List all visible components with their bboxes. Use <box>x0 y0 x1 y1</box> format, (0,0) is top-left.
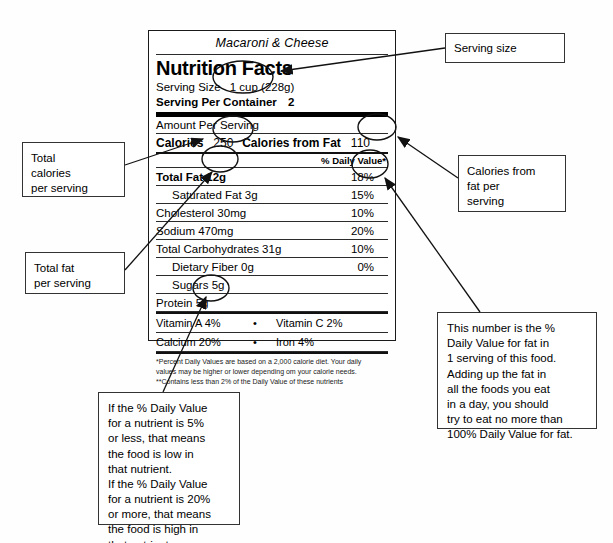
product-name: Macaroni & Cheese <box>156 31 388 54</box>
footnote-line-3: **Contains less than 2% of the Daily Val… <box>156 377 388 387</box>
vitamin-right-value: Iron 4% <box>276 336 314 348</box>
callout-serving-size: Serving size <box>445 33 565 63</box>
nutrition-facts-panel: Macaroni & Cheese Nutrition Facts Servin… <box>148 30 396 341</box>
nutrient-row: Cholesterol 30mg10% <box>156 204 388 221</box>
serving-size-row: Serving Size 1 cup (228g) <box>156 80 388 95</box>
nutrient-daily-value: 20% <box>351 225 388 237</box>
nutrition-facts-title: Nutrition Facts <box>156 55 388 80</box>
footnote-block: *Percent Daily Values are based on a 2,0… <box>156 354 388 387</box>
nutrient-name-amount: Saturated Fat 3g <box>156 189 258 201</box>
calories-from-fat-label: Calories from Fat <box>242 136 341 150</box>
vitamin-separator-dot: • <box>234 336 276 348</box>
nutrient-rows-container: Total Fat 12g18%Saturated Fat 3g15%Chole… <box>156 168 388 312</box>
nutrient-name-amount: Protein 5g <box>156 297 208 309</box>
nutrient-row: Sugars 5g <box>156 276 388 293</box>
vitamin-left-value: Calcium 20% <box>156 336 234 348</box>
callout-calories-from-fat-per-serving: Calories fromfat perserving <box>458 155 566 212</box>
nutrient-daily-value: 0% <box>357 261 388 273</box>
servings-per-container-row: Serving Per Container 2 <box>156 95 388 110</box>
calories-from-fat-value: 110 <box>341 136 370 150</box>
serving-size-label: Serving Size <box>156 81 221 93</box>
nutrient-row: Protein 5g <box>156 294 388 311</box>
serving-size-value: 1 cup (228g) <box>230 81 295 93</box>
servings-per-container-value: 2 <box>288 96 294 108</box>
callout-daily-value-for-fat-explanation: This number is the %Daily Value for fat … <box>437 312 597 429</box>
nutrient-daily-value: 15% <box>351 189 388 201</box>
footnote-line-2: values may be higher or lower depending … <box>156 367 388 377</box>
nutrient-row: Dietary Fiber 0g0% <box>156 258 388 275</box>
nutrient-row: Saturated Fat 3g15% <box>156 186 388 203</box>
nutrient-name-amount: Dietary Fiber 0g <box>156 261 254 273</box>
nutrient-name-amount: Sugars 5g <box>156 279 224 291</box>
calories-group: Calories250 <box>156 136 233 150</box>
nutrient-name-amount: Total Fat 12g <box>156 171 226 183</box>
vitamin-row: Calcium 20%•Iron 4% <box>156 333 388 351</box>
calories-value: 250 <box>203 136 233 150</box>
callout-daily-value-low-high-rule: If the % Daily Valuefor a nutrient is 5%… <box>98 392 240 525</box>
amount-per-serving-label: Amount Per Serving <box>156 117 388 133</box>
calories-row: Calories250 Calories from Fat110 <box>156 134 388 152</box>
vitamin-left-value: Vitamin A 4% <box>156 317 234 329</box>
leader-calories-from-fat <box>398 137 458 178</box>
vitamin-right-value: Vitamin C 2% <box>276 317 342 329</box>
nutrient-name-amount: Total Carbohydrates 31g <box>156 243 281 255</box>
nutrient-row: Total Fat 12g18% <box>156 168 388 185</box>
nutrient-daily-value: 10% <box>351 243 388 255</box>
callout-total-calories-per-serving: Totalcaloriesper serving <box>22 142 125 197</box>
nutrient-row: Total Carbohydrates 31g10% <box>156 240 388 257</box>
nutrient-daily-value: 18% <box>351 171 388 183</box>
daily-value-header: % Daily Value* <box>156 154 388 167</box>
footnote-line-1: *Percent Daily Values are based on a 2,0… <box>156 357 388 367</box>
nutrition-label-annotated-diagram: Macaroni & Cheese Nutrition Facts Servin… <box>0 0 613 543</box>
callout-total-fat-per-serving: Total fatper serving <box>25 252 125 294</box>
nutrient-name-amount: Sodium 470mg <box>156 225 233 237</box>
nutrient-name-amount: Cholesterol 30mg <box>156 207 246 219</box>
servings-per-container-label: Serving Per Container <box>156 96 277 108</box>
nutrient-row: Sodium 470mg20% <box>156 222 388 239</box>
calories-label: Calories <box>156 136 203 150</box>
vitamin-separator-dot: • <box>234 317 276 329</box>
vitamin-row: Vitamin A 4%•Vitamin C 2% <box>156 314 388 332</box>
nutrient-daily-value: 10% <box>351 207 388 219</box>
calories-from-fat-group: Calories from Fat110 <box>242 136 388 150</box>
vitamin-rows-container: Vitamin A 4%•Vitamin C 2%Calcium 20%•Iro… <box>156 314 388 352</box>
